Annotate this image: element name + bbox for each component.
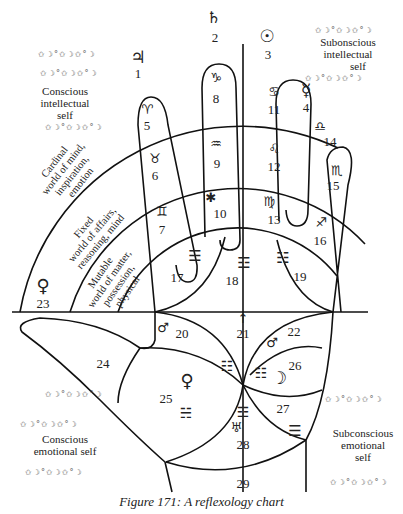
leo-icon: ♌ — [268, 142, 280, 155]
zone-label-7: 7 — [159, 223, 166, 236]
stars-moons-decoration: ✩☽°✩☽✩°☽ — [20, 420, 78, 429]
note-subconscious-intellectual: Subonscious intellectual self — [320, 36, 376, 72]
capricorn-icon: ♑ — [210, 71, 222, 84]
trigram-26-icon: ☷ — [255, 367, 268, 380]
stars-moons-decoration: ✩☽°✩☽✩°☽ — [40, 69, 98, 78]
sun-icon: ☉ — [259, 30, 274, 43]
uranus-icon: ♅ — [230, 421, 242, 434]
zone-label-28: 28 — [237, 438, 250, 451]
zone-label-19: 19 — [294, 270, 307, 283]
zone-label-20: 20 — [176, 327, 189, 340]
trigram-25a-icon: ☷ — [221, 360, 234, 373]
zone-label-9: 9 — [214, 157, 221, 170]
jupiter-icon: ♃ — [130, 51, 145, 64]
zone-label-1: 1 — [135, 67, 142, 80]
figure-caption: Figure 171: A reflexology chart — [0, 494, 403, 510]
cancer-icon: ♋ — [268, 85, 280, 98]
scorpio-icon: ♏ — [331, 164, 343, 177]
zone-label-16: 16 — [314, 234, 327, 247]
stars-moons-decoration: ✩☽°✩☽✩°☽ — [38, 50, 96, 59]
zone-label-25: 25 — [160, 392, 173, 405]
mars-20-icon: ♂ — [157, 321, 169, 334]
trigram-28-icon: ☲ — [237, 406, 250, 419]
zone-label-5: 5 — [144, 119, 151, 132]
note-subconscious-emotional: Subconscious emotional self — [333, 427, 394, 463]
mercury-icon: ☿ — [301, 84, 311, 97]
trigram-25b-icon: ☵ — [180, 407, 193, 420]
trigram-18-icon: ☲ — [237, 257, 250, 270]
zone-label-21: 21 — [237, 327, 250, 340]
zone-label-29: 29 — [237, 477, 250, 490]
zone-label-14: 14 — [324, 135, 337, 148]
zone-label-26: 26 — [289, 359, 302, 372]
stars-moons-decoration: ✩☽°✩☽✩°☽ — [325, 395, 383, 404]
zone-label-15: 15 — [327, 179, 340, 192]
pisces-icon: ✱ — [206, 191, 217, 204]
virgo-icon: ♍ — [263, 195, 275, 208]
zone-label-8: 8 — [213, 92, 220, 105]
stars-moons-decoration: ✩☽°✩☽✩°☽ — [25, 468, 83, 477]
zone-label-10: 10 — [214, 207, 227, 220]
zone-label-18: 18 — [226, 274, 239, 287]
taurus-icon: ♉ — [149, 152, 161, 165]
trigram-17-icon: ☰ — [188, 250, 201, 263]
zone-label-4: 4 — [303, 101, 310, 114]
zone-label-13: 13 — [268, 213, 281, 226]
zone-label-27: 27 — [277, 402, 290, 415]
note-conscious-emotional: Conscious emotional self — [34, 433, 97, 457]
stars-moons-decoration: ✩☽°✩☽✩°☽ — [315, 26, 373, 35]
zone-label-23: 23 — [37, 297, 50, 310]
zone-label-3: 3 — [265, 48, 272, 61]
stars-moons-decoration: ✩☽°✩☽✩°☽ — [45, 390, 103, 399]
note-conscious-intellectual: Conscious intellectual self — [41, 85, 90, 121]
zone-label-22: 22 — [288, 325, 301, 338]
line-25 — [118, 348, 140, 403]
mars-22-icon: ♂ — [266, 336, 278, 349]
gemini-icon: ♊ — [156, 205, 168, 218]
stars-moons-decoration: ✩☽°✩☽✩°☽ — [45, 123, 103, 132]
sagittarius-icon: ♐ — [315, 216, 327, 229]
finger-middle — [202, 64, 240, 250]
arrow-up-icon: ↑ — [238, 312, 249, 325]
venus-25-icon: ♀ — [180, 374, 193, 387]
zone-label-12: 12 — [268, 160, 281, 173]
zone-label-24: 24 — [97, 357, 110, 370]
zone-label-2: 2 — [212, 31, 219, 44]
aquarius-icon: ♒ — [210, 137, 222, 150]
aries-icon: ♈ — [141, 103, 153, 116]
thumb — [20, 312, 172, 492]
trigram-19-icon: ☷ — [276, 252, 289, 265]
venus-23-icon: ♀ — [36, 279, 49, 292]
stars-moons-decoration: ✩☽°✩☽✩°☽ — [305, 74, 363, 83]
zone-label-6: 6 — [152, 169, 159, 182]
stars-moons-decoration: ✩☽°✩☽✩°☽ — [330, 478, 388, 487]
zone-label-11: 11 — [268, 103, 281, 116]
zone-label-17: 17 — [171, 271, 184, 284]
moon-icon: ☽ — [271, 371, 287, 384]
trigram-27-icon: ☰ — [288, 425, 301, 438]
libra-icon: ♎ — [314, 120, 326, 133]
saturn-icon: ♄ — [207, 11, 221, 24]
